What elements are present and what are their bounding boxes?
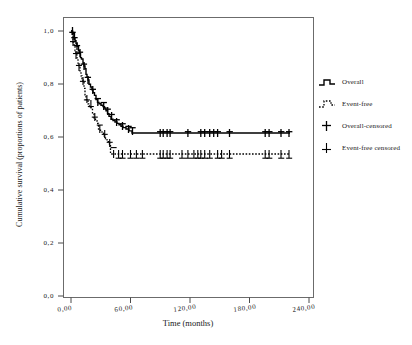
legend-label-event-free-censored: Event-free censored [342,144,400,152]
plot-frame [64,18,314,298]
y-axis-ticks [58,31,64,296]
legend-label-overall: Overall [342,78,364,86]
plus-thin-icon [318,141,342,155]
y-tick-label-1: 1,0 [24,27,54,35]
plot-canvas [0,0,412,345]
y-axis-title: Cumulative survival (proportions of pati… [15,50,24,260]
legend-label-event-free: Event-free [342,100,373,108]
y-tick-label-4: 0,4 [24,186,54,194]
y-tick-label-2: 0,8 [24,80,54,88]
kaplan-meier-figure: 1,0 0,8 0,6 0,4 0,2 0,0 0,00 60,00 120,0… [0,0,412,345]
dotted-step-line-icon [318,97,342,111]
y-tick-label-3: 0,6 [24,133,54,141]
x-axis-title: Time (months) [113,318,263,328]
plus-bold-icon [318,119,342,133]
legend-label-overall-censored: Overall-censored [342,122,392,130]
x-axis-ticks [71,298,309,304]
solid-step-line-icon [318,75,342,89]
y-tick-label-5: 0,2 [24,239,54,247]
y-tick-label-6: 0,0 [24,292,54,300]
